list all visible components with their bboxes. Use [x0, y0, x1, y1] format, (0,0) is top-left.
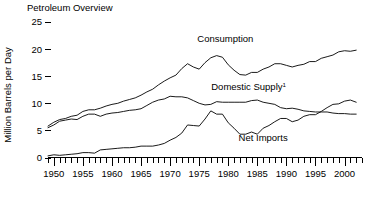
footnote-marker: 1: [283, 81, 287, 88]
x-tick-label: 1980: [218, 168, 239, 179]
x-tick-label: 1975: [189, 168, 210, 179]
series-label-consumption: Consumption: [197, 33, 253, 44]
x-tick-label: 1985: [247, 168, 268, 179]
x-tick-label: 1950: [43, 168, 64, 179]
x-tick-label: 2000: [334, 168, 355, 179]
chart-canvas: Petroleum Overview Million Barrels per D…: [0, 0, 368, 197]
y-axis-title: Million Barrels per Day: [2, 47, 13, 143]
x-tick-label: 1960: [101, 168, 122, 179]
x-tick-label: 1965: [130, 168, 151, 179]
series-label-domestic-supply: Domestic Supply1: [211, 81, 286, 92]
x-tick-label: 1990: [276, 168, 297, 179]
y-tick-label: 20: [31, 44, 42, 55]
chart-title: Petroleum Overview: [27, 2, 113, 13]
x-axis-tick-labels: 1950195519601965197019751980198519901995…: [43, 168, 355, 179]
y-tick-label: 5: [37, 125, 42, 136]
y-axis-tick-marks: [45, 23, 51, 159]
y-tick-label: 25: [31, 16, 42, 27]
petroleum-overview-chart: Petroleum Overview Million Barrels per D…: [0, 0, 368, 197]
y-tick-label: 15: [31, 71, 42, 82]
series-labels: ConsumptionDomestic Supply1Net Imports: [197, 33, 288, 143]
x-axis-major-ticks: [54, 158, 345, 166]
series-lines: [48, 50, 356, 156]
x-tick-label: 1955: [72, 168, 93, 179]
series-label-net-imports: Net Imports: [239, 132, 288, 143]
x-tick-label: 1995: [305, 168, 326, 179]
x-tick-label: 1970: [160, 168, 181, 179]
x-axis-minor-ticks: [49, 158, 363, 163]
y-tick-label: 10: [31, 98, 42, 109]
y-axis-tick-labels: 0510152025: [31, 16, 42, 163]
y-tick-label: 0: [37, 152, 42, 163]
series-line-net-imports: [48, 100, 356, 156]
